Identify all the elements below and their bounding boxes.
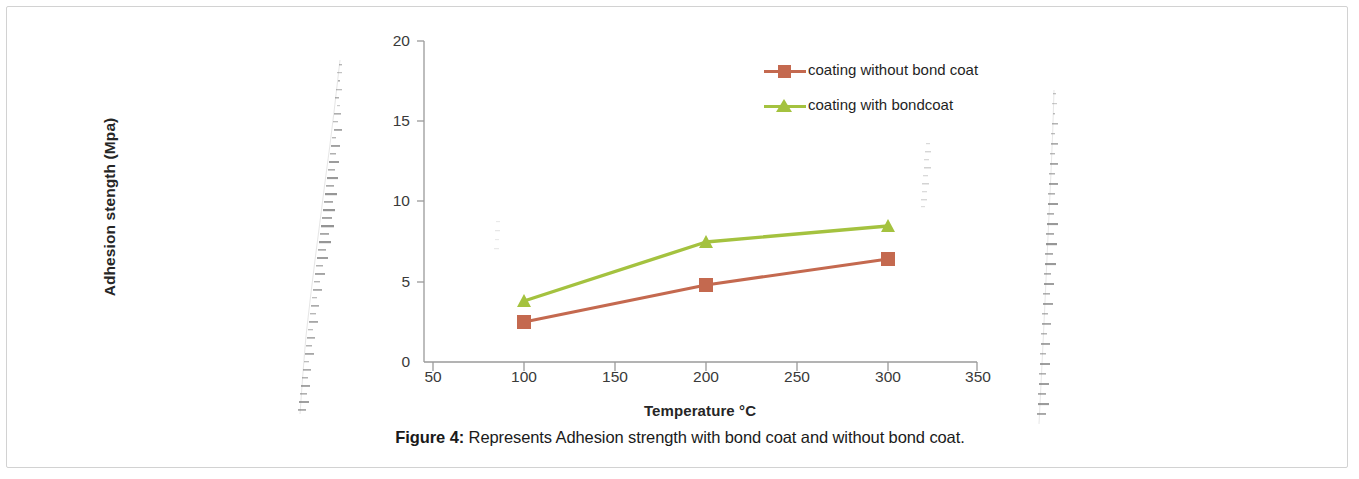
legend-marker-square-icon bbox=[762, 61, 808, 81]
chart-legend: coating without bond coat coating with b… bbox=[762, 60, 1002, 130]
figure-caption-label: Figure 4: bbox=[395, 428, 464, 446]
adhesion-strength-line-chart: Adhesion stength (Mpa) 20 15 10 5 0 50 1… bbox=[0, 0, 1359, 479]
legend-item-coating-with-bondcoat: coating with bondcoat bbox=[762, 95, 1002, 116]
figure-caption-text: Represents Adhesion strength with bond c… bbox=[464, 428, 965, 446]
plot-canvas bbox=[0, 0, 1359, 479]
series-coating-with-bondcoat bbox=[517, 219, 895, 307]
series-coating-without-bond-coat bbox=[517, 252, 895, 329]
scanned-page: Adhesion stength (Mpa) 20 15 10 5 0 50 1… bbox=[0, 0, 1359, 479]
legend-label-coating-without-bond-coat: coating without bond coat bbox=[808, 60, 978, 80]
legend-label-coating-with-bondcoat: coating with bondcoat bbox=[808, 95, 953, 115]
figure-caption: Figure 4: Represents Adhesion strength w… bbox=[120, 428, 1240, 447]
legend-item-coating-without-bond-coat: coating without bond coat bbox=[762, 60, 1002, 81]
legend-marker-triangle-icon bbox=[762, 96, 808, 116]
